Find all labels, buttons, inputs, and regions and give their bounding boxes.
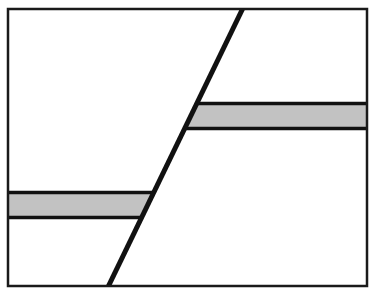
fault-offset-diagram bbox=[0, 0, 377, 297]
figure-root bbox=[0, 0, 377, 297]
diagram-background bbox=[0, 0, 377, 297]
